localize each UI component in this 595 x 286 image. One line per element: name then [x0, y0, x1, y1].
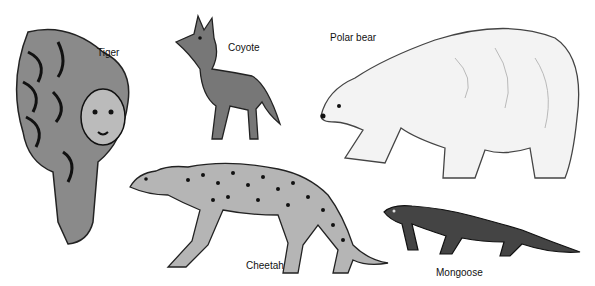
polar-bear-label: Polar bear	[330, 32, 376, 43]
tiger-label: Tiger	[97, 47, 119, 58]
mongoose-label: Mongoose	[436, 267, 483, 278]
mongoose-illustration	[382, 202, 582, 262]
cheetah-label: Cheetah	[246, 260, 284, 271]
coyote-illustration	[172, 14, 284, 142]
coyote-label: Coyote	[228, 42, 260, 53]
animal-illustration: Tiger Coyote Polar bear	[0, 0, 595, 286]
